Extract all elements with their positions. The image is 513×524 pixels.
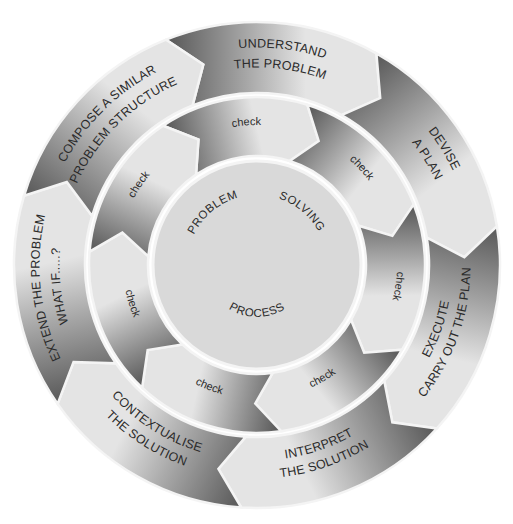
problem-solving-cycle-diagram: UNDERSTANDTHE PROBLEMDEVISEA PLANEXECUTE…: [0, 0, 513, 524]
center-disc: [153, 161, 361, 369]
center-circle: PROBLEM SOLVING PROCESS: [153, 161, 361, 369]
cycle-diagram-svg: UNDERSTANDTHE PROBLEMDEVISEA PLANEXECUTE…: [0, 0, 513, 524]
